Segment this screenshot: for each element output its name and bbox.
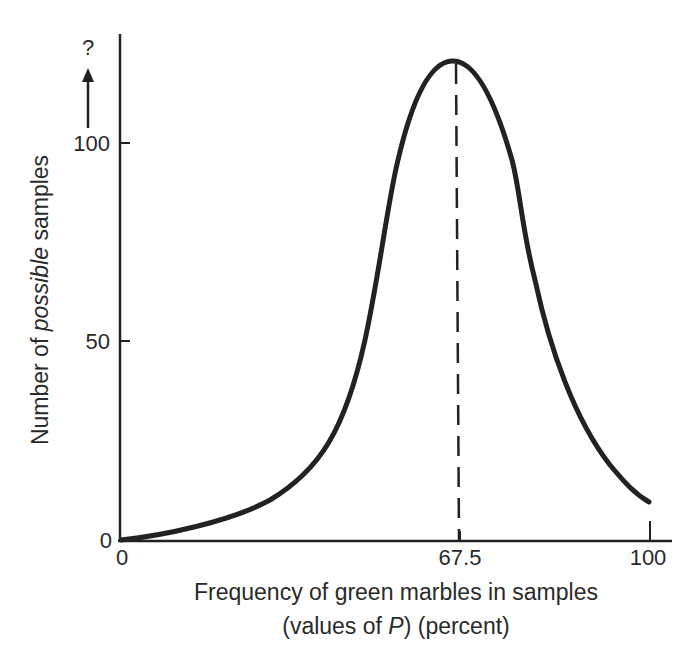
x-tick-label-67-5: 67.5	[439, 545, 482, 570]
x-axis-title-line2: (values of P) (percent)	[282, 613, 510, 639]
y-axis-title: Number of possible samples	[27, 155, 53, 445]
chart: 100 50 0 0 67.5 100 ? Number of possible…	[0, 0, 700, 657]
x-tick-label-0: 0	[116, 545, 128, 570]
distribution-curve	[121, 61, 649, 540]
y-tick-label-0: 0	[100, 528, 112, 553]
mean-reference-line	[456, 64, 459, 541]
y-tick-label-50: 50	[86, 329, 110, 354]
y-unknown-marker: ?	[82, 35, 94, 60]
up-arrow-icon	[82, 68, 94, 128]
x-tick-label-100: 100	[630, 545, 667, 570]
y-tick-label-100: 100	[73, 131, 110, 156]
x-axis-title-line1: Frequency of green marbles in samples	[194, 579, 598, 605]
